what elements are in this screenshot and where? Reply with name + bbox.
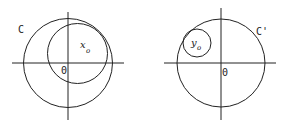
right-circle-label: C' xyxy=(256,26,268,37)
left-figure xyxy=(12,12,124,120)
right-origin-label: 0 xyxy=(222,67,228,78)
right-inner-circle xyxy=(183,29,211,57)
left-inner-circle xyxy=(48,24,108,84)
left-origin-label: 0 xyxy=(61,65,67,76)
right-figure xyxy=(164,8,276,120)
left-point-subscript: o xyxy=(86,47,90,55)
right-point-subscript: o xyxy=(197,44,201,52)
right-point-label: y xyxy=(190,37,197,48)
diagram-canvas: C x o 0 C' y o 0 xyxy=(0,0,287,124)
left-circle-label: C xyxy=(18,24,24,35)
